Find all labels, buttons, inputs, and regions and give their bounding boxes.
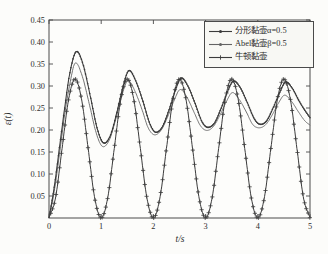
series-marker-dot [304, 109, 306, 111]
series-marker-dot [86, 78, 88, 80]
series-marker-dot [143, 104, 145, 106]
series-marker-dot [238, 85, 240, 87]
series-marker-dot [241, 90, 243, 92]
legend-item-0: 分形黏壶α=0.5 [208, 27, 312, 36]
series-marker-dot [123, 82, 125, 84]
series-marker-dot [277, 97, 279, 99]
series-marker-dot [229, 86, 231, 88]
series-marker-dot [164, 121, 166, 123]
x-tick-label: 5 [308, 222, 312, 231]
series-marker-dot [215, 120, 217, 122]
series-marker-dot [283, 83, 285, 85]
series-marker-dot [138, 88, 140, 90]
legend-line-sample [208, 53, 233, 62]
series-marker-dot [254, 119, 256, 121]
series-marker-dot [63, 115, 65, 117]
series-marker-dot [168, 109, 170, 111]
series-marker-dot [296, 95, 298, 97]
series-marker-dot [226, 93, 228, 95]
series-marker-dot [167, 112, 169, 114]
series-marker-dot [144, 108, 146, 110]
series-marker-dot [203, 123, 205, 125]
series-marker-dot [275, 102, 277, 104]
series-marker-dot [298, 99, 300, 101]
series-marker-dot [251, 112, 253, 114]
series-marker-dot [69, 72, 71, 74]
series-marker-dot [274, 104, 276, 106]
x-tick-label: 0 [47, 222, 51, 231]
series-marker-dot [202, 122, 204, 124]
series-marker-dot [62, 123, 64, 125]
series-marker-dot [248, 104, 250, 106]
series-marker-dot [115, 116, 117, 118]
series-marker-dot [214, 121, 216, 123]
series-marker-dot [119, 98, 121, 100]
series-marker-dot [121, 89, 123, 91]
series-marker-dot [139, 91, 141, 93]
series-marker-dot [88, 88, 90, 90]
series-marker-dot [228, 89, 230, 91]
y-tick-label: 0.45 [30, 16, 45, 25]
series-marker-dot [130, 70, 132, 72]
y-tick-label: 0.10 [30, 170, 45, 179]
series-marker-dot [79, 53, 81, 55]
series-marker-dot [198, 112, 200, 114]
legend-label: 分形黏壶α=0.5 [235, 27, 287, 35]
x-tick-label: 3 [204, 222, 208, 231]
series-marker-dot [61, 131, 63, 133]
series-marker-dot [246, 100, 248, 102]
series-marker-dot [289, 84, 291, 86]
series-marker-dot [73, 55, 75, 57]
series-marker-dot [216, 117, 218, 119]
y-tick-label: 0.20 [30, 126, 45, 135]
series-marker-dot [240, 88, 242, 90]
series-marker-dot [89, 93, 91, 95]
series-marker-dot [171, 99, 173, 101]
series-marker-dot [266, 119, 268, 121]
series-marker-dot [147, 118, 149, 120]
series-marker-dot [51, 199, 53, 201]
series-marker-dot [100, 139, 102, 141]
series-marker-dot [307, 114, 309, 116]
series-marker-dot [146, 115, 148, 117]
series-marker-dot [96, 127, 98, 129]
series-marker-dot [189, 90, 191, 92]
series-marker-dot [282, 85, 284, 87]
series-marker-dot [267, 118, 269, 120]
legend-marker-plus-icon [218, 55, 222, 59]
series-marker-dot [242, 92, 244, 94]
x-tick-label: 2 [151, 222, 155, 231]
series-marker-dot [66, 92, 68, 94]
series-marker-dot [303, 108, 305, 110]
series-marker-dot [218, 112, 220, 114]
y-tick-label: 0.15 [30, 148, 45, 157]
series-marker-dot [178, 81, 180, 83]
legend-label: 牛顿黏壶 [235, 53, 267, 61]
legend-line-sample [208, 27, 233, 36]
series-marker-dot [142, 101, 144, 103]
series-marker-dot [290, 86, 292, 88]
series-marker-dot [112, 128, 114, 130]
series-marker-dot [201, 120, 203, 122]
series-marker-dot [270, 113, 272, 115]
x-tick-label: 4 [256, 222, 261, 231]
y-tick-label: 0.30 [30, 82, 45, 91]
x-axis-label: t/s [176, 234, 185, 244]
series-marker-dot [111, 131, 113, 133]
series-marker-dot [134, 78, 136, 80]
series-marker-dot [176, 87, 178, 89]
series-marker-dot [80, 56, 82, 58]
series-marker-dot [98, 134, 100, 136]
series-marker-dot [50, 205, 52, 207]
series-marker-dot [162, 125, 164, 127]
series-marker-dot [188, 87, 190, 89]
series-marker-dot [237, 83, 239, 85]
series-marker-dot [187, 85, 189, 87]
series-marker-dot [273, 106, 275, 108]
legend-item-2: 牛顿黏壶 [208, 53, 312, 62]
series-marker-dot [151, 126, 153, 128]
series-marker-dot [227, 91, 229, 93]
series-marker-dot [196, 109, 198, 111]
series-marker-dot [294, 91, 296, 93]
series-marker-dot [87, 83, 89, 85]
